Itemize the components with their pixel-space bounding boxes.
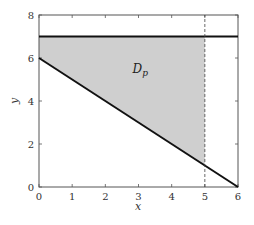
x-tick-label: 5 bbox=[202, 191, 208, 202]
y-tick-label: 0 bbox=[28, 182, 34, 193]
region-dp bbox=[39, 37, 205, 166]
x-tick-label: 2 bbox=[102, 191, 108, 202]
x-axis-label: x bbox=[135, 200, 142, 213]
x-tick-label: 6 bbox=[235, 191, 241, 202]
x-tick-label: 0 bbox=[36, 191, 42, 202]
y-tick-label: 8 bbox=[28, 10, 34, 21]
x-tick-label: 4 bbox=[168, 191, 174, 202]
x-tick-label: 1 bbox=[69, 191, 75, 202]
y-axis-label: y bbox=[8, 97, 21, 105]
plot-area: 012345602468Dp bbox=[28, 10, 242, 203]
y-tick-label: 4 bbox=[28, 96, 34, 107]
y-tick-label: 6 bbox=[28, 53, 34, 64]
chart: 012345602468Dp x y bbox=[0, 0, 254, 225]
y-tick-label: 2 bbox=[28, 139, 34, 150]
